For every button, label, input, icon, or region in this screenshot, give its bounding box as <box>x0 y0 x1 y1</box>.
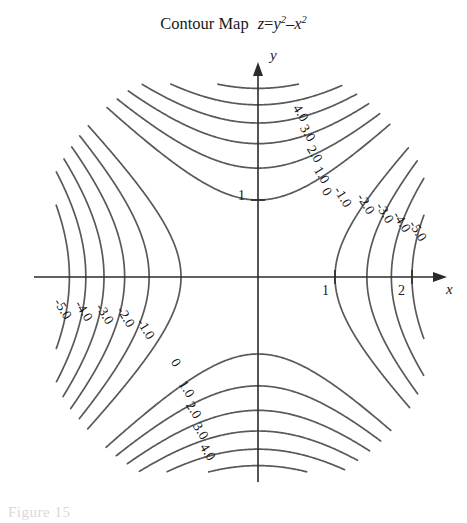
contour-plot-area <box>0 0 467 523</box>
contour-line <box>167 449 344 472</box>
contour-line <box>171 84 342 105</box>
contour-line <box>128 91 368 144</box>
x-axis-label: x <box>446 281 453 298</box>
y-axis-tick-label-1: 1 <box>238 188 245 204</box>
contour-map-figure: Contour Mapz=y2–x2 y x 1 1 2 4.03.02.01.… <box>0 0 467 523</box>
contour-lines-group <box>56 84 424 472</box>
contour-svg <box>0 0 467 523</box>
contour-line <box>106 354 391 447</box>
y-axis-label: y <box>270 47 277 64</box>
contour-line <box>127 410 369 463</box>
contour-line <box>142 84 356 123</box>
x-axis-arrow <box>433 272 447 282</box>
x-axis-tick-label-2: 2 <box>398 283 405 299</box>
figure-caption: Figure 15 <box>8 504 70 521</box>
x-axis-tick-label-1: 1 <box>322 283 329 299</box>
contour-line <box>107 108 390 200</box>
y-axis-arrow <box>253 62 263 76</box>
